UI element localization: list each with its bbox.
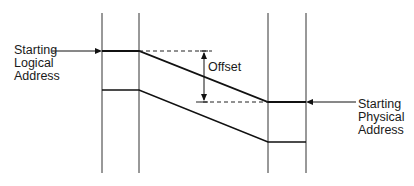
offset-label: Offset	[208, 61, 241, 74]
physical-pointer-arrow-icon	[306, 99, 356, 105]
starting-logical-address-label: Starting Logical Address	[14, 44, 60, 83]
starting-physical-address-label: Starting Physical Address	[358, 98, 405, 137]
physical-label-line-3: Address	[358, 124, 405, 137]
offset-diagram	[0, 0, 414, 186]
logical-label-line-3: Address	[14, 70, 60, 83]
